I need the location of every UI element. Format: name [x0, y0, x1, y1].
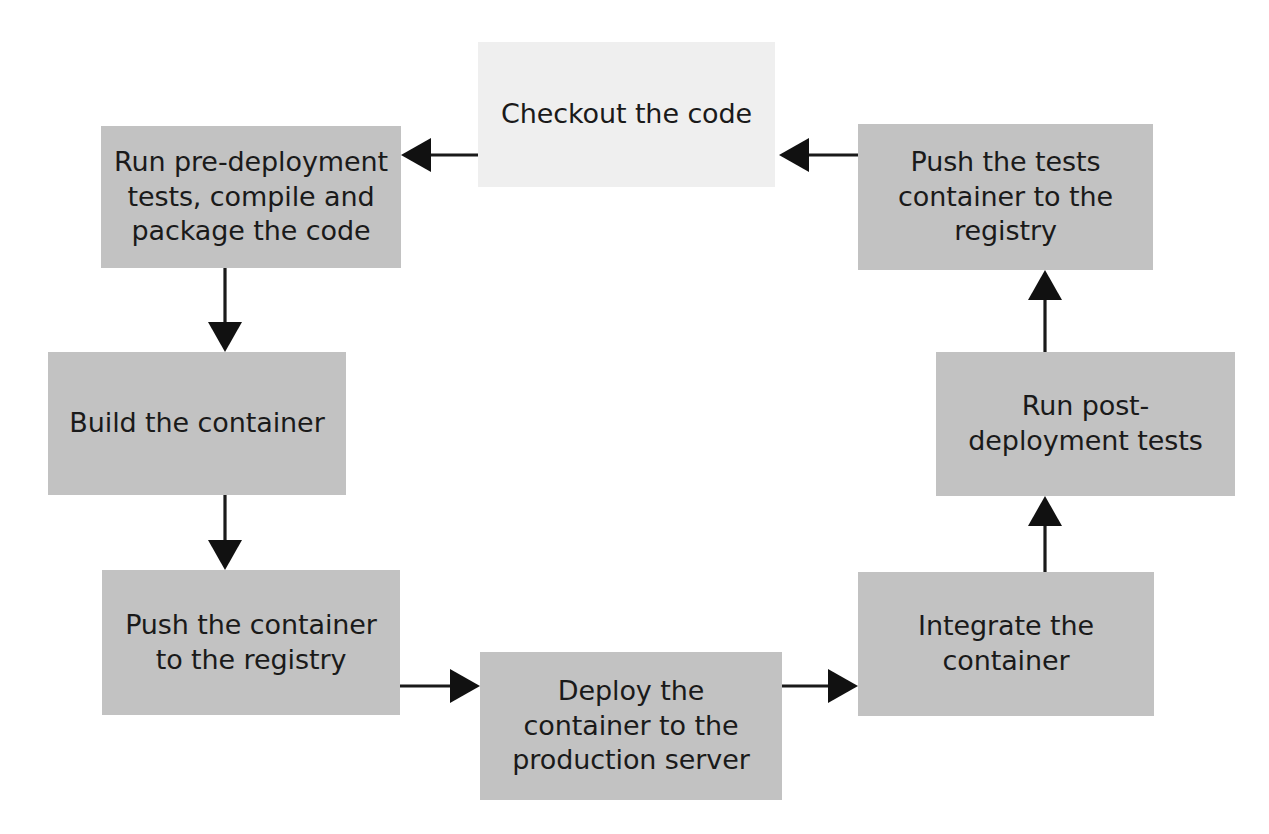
flow-node-integrate-container: Integrate the container — [858, 572, 1154, 716]
arrow-head-icon — [1028, 496, 1062, 526]
arrow-head-icon — [401, 138, 431, 172]
arrow-head-icon — [208, 322, 242, 352]
arrow-head-icon — [450, 669, 480, 703]
flowchart-canvas: Checkout the codeRun pre-deployment test… — [0, 0, 1269, 834]
flow-node-label: Build the container — [69, 406, 324, 441]
flow-node-label: Checkout the code — [501, 97, 752, 132]
flow-node-label: Run pre-deployment tests, compile and pa… — [114, 145, 388, 249]
flow-arrow-post-deployment-to-push-tests — [1028, 270, 1062, 352]
flow-node-label: Push the container to the registry — [125, 608, 377, 677]
flow-node-post-deployment: Run post- deployment tests — [936, 352, 1235, 496]
flow-node-deploy-container: Deploy the container to the production s… — [480, 652, 782, 800]
flow-arrow-pre-deployment-to-build — [208, 268, 242, 352]
arrow-head-icon — [1028, 270, 1062, 300]
flow-node-checkout: Checkout the code — [478, 42, 775, 187]
flow-arrow-push-tests-to-checkout — [779, 138, 858, 172]
flow-node-build-container: Build the container — [48, 352, 346, 495]
arrow-head-icon — [779, 138, 809, 172]
flow-arrow-push-container-to-deploy — [400, 669, 480, 703]
flow-arrow-checkout-to-pre-deployment — [401, 138, 478, 172]
flow-node-push-container: Push the container to the registry — [102, 570, 400, 715]
flow-node-label: Push the tests container to the registry — [898, 145, 1113, 249]
flow-arrow-build-to-push-container — [208, 495, 242, 570]
flow-node-label: Run post- deployment tests — [968, 389, 1202, 458]
flow-node-label: Integrate the container — [918, 609, 1094, 678]
flow-node-label: Deploy the container to the production s… — [512, 674, 749, 778]
arrow-head-icon — [208, 540, 242, 570]
flow-node-push-tests: Push the tests container to the registry — [858, 124, 1153, 270]
flow-arrow-deploy-to-integrate — [782, 669, 858, 703]
flow-arrow-integrate-to-post-deployment — [1028, 496, 1062, 572]
arrow-head-icon — [828, 669, 858, 703]
flow-node-pre-deployment: Run pre-deployment tests, compile and pa… — [101, 126, 401, 268]
